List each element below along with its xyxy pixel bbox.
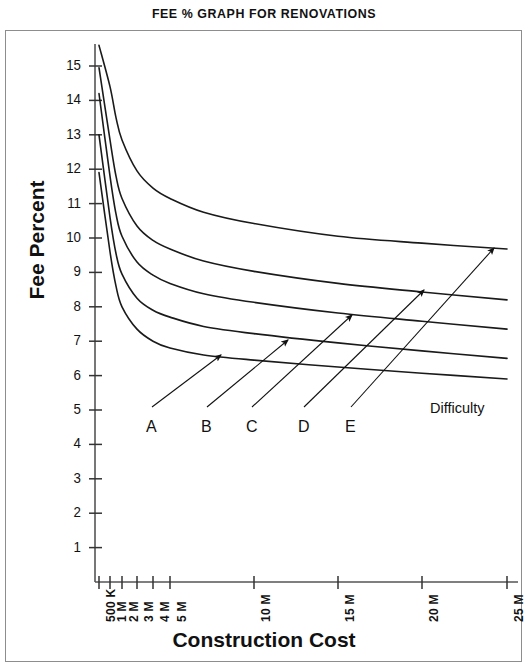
curve-d — [99, 68, 507, 300]
arrow-a — [152, 355, 221, 407]
curve-e — [99, 45, 507, 249]
curve-b — [99, 135, 507, 359]
label-arrows — [152, 248, 494, 407]
arrow-e — [351, 248, 494, 407]
arrow-d — [304, 290, 424, 407]
chart-root: FEE % GRAPH FOR RENOVATIONS Fee Percent … — [0, 0, 528, 668]
data-curves — [99, 45, 507, 379]
plot-area — [0, 0, 528, 668]
arrow-b — [207, 340, 288, 407]
curve-a — [99, 173, 507, 379]
axes — [89, 44, 518, 589]
